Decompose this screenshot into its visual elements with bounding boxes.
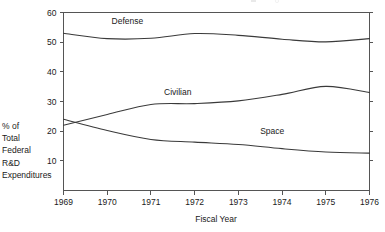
x-axis-tick-labels: 19691970197119721973197419751976	[54, 197, 379, 207]
x-tick-label-1973: 1973	[229, 197, 248, 207]
series-line-defense	[64, 33, 370, 42]
y-tick-label-30: 30	[47, 97, 57, 107]
x-axis-ticks	[64, 191, 370, 195]
y-axis-title-line-4: Expenditures	[2, 170, 52, 180]
x-tick-label-1970: 1970	[98, 197, 117, 207]
y-tick-label-40: 40	[47, 67, 57, 77]
y-axis-title-line-0: % of	[2, 121, 20, 131]
y-tick-label-60: 60	[47, 8, 57, 18]
line-chart: 102030405060 196919701971197219731974197…	[0, 0, 385, 232]
x-tick-label-1971: 1971	[141, 197, 160, 207]
x-axis-title: Fiscal Year	[195, 214, 237, 224]
series-label-space: Space	[260, 126, 284, 136]
y-axis-title-line-2: Federal	[2, 145, 31, 155]
series-line-space	[64, 119, 370, 153]
y-axis-title: % ofTotalFederalR&DExpenditures	[2, 121, 52, 180]
y-axis-title-line-3: R&D	[2, 158, 20, 168]
y-tick-label-50: 50	[47, 37, 57, 47]
x-tick-label-1974: 1974	[273, 197, 292, 207]
series-label-civilian: Civilian	[164, 87, 192, 97]
y-tick-label-20: 20	[47, 126, 57, 136]
y-axis-tick-labels: 102030405060	[47, 8, 57, 166]
series-label-group: DefenseCivilianSpace	[112, 16, 285, 136]
x-tick-label-1972: 1972	[185, 197, 204, 207]
x-tick-label-1976: 1976	[360, 197, 379, 207]
data-series-group	[64, 33, 370, 153]
y-axis-title-line-1: Total	[2, 133, 20, 143]
x-tick-label-1975: 1975	[316, 197, 335, 207]
series-label-defense: Defense	[112, 16, 144, 26]
x-tick-label-1969: 1969	[54, 197, 73, 207]
series-line-civilian	[64, 86, 370, 125]
y-tick-label-10: 10	[47, 156, 57, 166]
chart-container: 102030405060 196919701971197219731974197…	[0, 0, 385, 232]
